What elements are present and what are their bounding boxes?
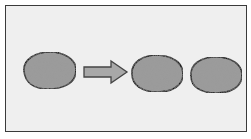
parent-cell	[24, 52, 76, 89]
diagram-stage	[0, 0, 251, 139]
daughter-cell-2	[191, 57, 242, 93]
right-arrow-icon	[84, 61, 127, 83]
fission-diagram	[0, 0, 251, 139]
daughter-cell-1	[132, 55, 183, 92]
